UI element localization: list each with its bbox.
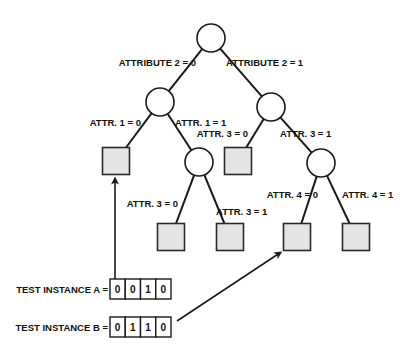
edge-label: ATTR. 4 = 0: [267, 189, 318, 200]
tree-edge: [176, 175, 194, 223]
instance-cell-value: 0: [161, 322, 167, 333]
split-node-n2: [257, 93, 285, 121]
edge-label: ATTR. 3 = 0: [197, 128, 248, 139]
decision-tree-diagram: ATTRIBUTE 2 = 0ATTRIBUTE 2 = 1ATTR. 1 = …: [0, 0, 409, 350]
edge-label: ATTR. 3 = 1: [216, 206, 268, 217]
leaf-node-leaf2: [225, 148, 252, 175]
split-node-n3: [185, 148, 213, 176]
instance-cell-value: 0: [130, 284, 136, 295]
instance-b-arrow: [177, 253, 281, 322]
edge-label: ATTRIBUTE 2 = 0: [119, 57, 196, 68]
tree-edge: [220, 49, 262, 97]
edge-label: ATTR. 3 = 1: [280, 128, 332, 139]
instance-cell-value: 1: [145, 284, 151, 295]
split-node-root: [197, 24, 225, 52]
edge-label: ATTR. 3 = 0: [127, 198, 178, 209]
instance-cell-value: 0: [161, 284, 167, 295]
instance-cell-value: 0: [115, 322, 121, 333]
split-node-n4: [307, 149, 335, 177]
edge-label: ATTR. 1 = 1: [175, 117, 227, 128]
split-node-n1: [146, 88, 174, 116]
tree-edge: [169, 49, 203, 91]
edge-label: ATTR. 4 = 1: [342, 189, 394, 200]
instance-cell-value: 1: [145, 322, 151, 333]
leaf-node-leaf5: [284, 224, 311, 251]
test-instance-label: TEST INSTANCE B =: [16, 322, 109, 333]
edge-label: ATTR. 1 = 0: [90, 117, 141, 128]
leaf-node-leaf3: [158, 224, 185, 251]
edge-label: ATTRIBUTE 2 = 1: [226, 57, 304, 68]
test-instance-label: TEST INSTANCE A =: [16, 284, 108, 295]
leaf-node-leaf1: [103, 148, 130, 175]
leaf-node-leaf4: [217, 224, 244, 251]
edge-labels-layer: ATTRIBUTE 2 = 0ATTRIBUTE 2 = 1ATTR. 1 = …: [90, 57, 394, 217]
leaf-node-leaf6: [343, 224, 370, 251]
instance-cell-value: 0: [115, 284, 121, 295]
instance-cell-value: 1: [130, 322, 136, 333]
tree-edge: [246, 119, 263, 148]
